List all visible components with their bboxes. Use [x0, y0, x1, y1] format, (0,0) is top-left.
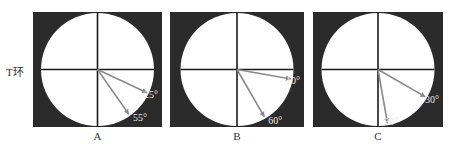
- angle-label: 25°: [144, 89, 158, 100]
- circle-diagram: 10°60°: [170, 12, 304, 127]
- angle-label: 55°: [133, 112, 147, 123]
- caption-b: B: [170, 130, 304, 142]
- circle-diagram: 25°55°: [33, 12, 162, 127]
- caption-c: C: [313, 130, 443, 142]
- panel-a: 25°55°: [33, 12, 162, 127]
- circle-diagram: 30°80°: [313, 12, 443, 127]
- t-ring-label: T环: [6, 63, 24, 79]
- angle-label: 60°: [268, 115, 282, 126]
- angle-label: 80°: [384, 116, 398, 127]
- panel-c: 30°80°: [313, 12, 443, 127]
- panel-b: 10°60°: [170, 12, 304, 127]
- caption-a: A: [33, 130, 162, 142]
- angle-label: 10°: [286, 75, 300, 86]
- angle-label: 30°: [425, 94, 439, 105]
